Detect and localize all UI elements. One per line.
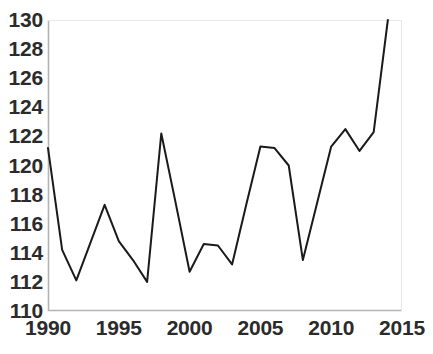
y-tick-label-128: 128 <box>9 38 43 59</box>
x-tick-label-2010: 2010 <box>305 317 357 338</box>
x-tick-label-2005: 2005 <box>234 317 286 338</box>
x-tick-label-1995: 1995 <box>93 317 145 338</box>
line-chart: 110112114116118120122124126128130 199019… <box>0 0 433 354</box>
data-series-line <box>48 20 388 282</box>
y-tick-label-120: 120 <box>9 155 43 176</box>
y-tick-label-130: 130 <box>9 9 43 30</box>
y-tick-label-112: 112 <box>10 271 43 292</box>
y-tick-label-116: 116 <box>10 213 43 234</box>
y-tick-label-126: 126 <box>9 67 43 88</box>
x-tick-label-2015: 2015 <box>376 317 428 338</box>
y-tick-label-122: 122 <box>9 125 43 146</box>
y-tick-label-114: 114 <box>10 242 43 263</box>
x-tick-label-2000: 2000 <box>164 317 216 338</box>
y-tick-label-118: 118 <box>10 184 43 205</box>
y-tick-label-124: 124 <box>9 96 43 117</box>
chart-plot-area <box>0 0 433 354</box>
x-tick-label-1990: 1990 <box>22 317 74 338</box>
